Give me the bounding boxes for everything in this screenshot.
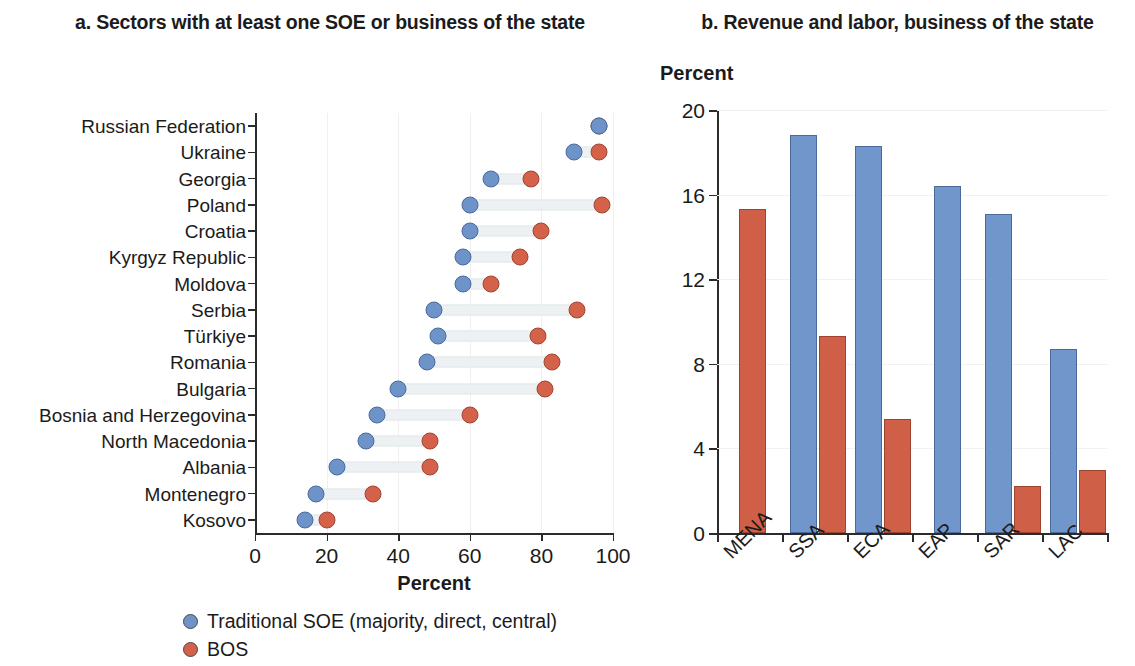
bar-revenue[interactable] <box>934 186 961 533</box>
soe-dot[interactable] <box>329 459 346 476</box>
category-label: Serbia <box>191 300 246 319</box>
category-label: Türkiye <box>184 327 246 346</box>
x-axis-tick <box>717 533 719 542</box>
gridline <box>717 110 1107 111</box>
y-axis-tick <box>248 467 255 468</box>
bos-dot[interactable] <box>365 485 382 502</box>
y-axis-tick-label: 8 <box>693 353 705 374</box>
panel-b-plot-area: 048121620 MENASSAECAEAPSARLAC <box>717 110 1107 533</box>
x-axis-tick-label: 0 <box>225 544 285 568</box>
soe-dot[interactable] <box>418 354 435 371</box>
bar-revenue[interactable] <box>855 146 882 533</box>
category-label: Poland <box>187 195 246 214</box>
soe-dot[interactable] <box>454 249 471 266</box>
bar-revenue[interactable] <box>1050 349 1077 533</box>
y-axis-tick <box>248 152 255 153</box>
legend-item[interactable]: Traditional SOE (majority, direct, centr… <box>183 607 557 635</box>
y-axis-tick <box>248 335 255 336</box>
bos-dot[interactable] <box>569 301 586 318</box>
dumbbell-connector <box>366 436 430 447</box>
gridline <box>470 113 471 533</box>
bos-dot[interactable] <box>590 144 607 161</box>
soe-dot[interactable] <box>590 118 607 135</box>
panel-a-title: a. Sectors with at least one SOE or busi… <box>40 10 620 35</box>
bos-dot[interactable] <box>422 459 439 476</box>
soe-dot[interactable] <box>461 223 478 240</box>
bar-labor[interactable] <box>819 336 846 533</box>
soe-dot[interactable] <box>565 144 582 161</box>
soe-dot[interactable] <box>429 328 446 345</box>
x-axis-tick <box>1107 533 1109 542</box>
legend-swatch-icon <box>183 642 198 657</box>
soe-dot[interactable] <box>483 170 500 187</box>
dumbbell-connector <box>377 409 470 420</box>
soe-dot[interactable] <box>297 511 314 528</box>
x-axis-tick <box>470 533 471 541</box>
dumbbell-connector <box>434 304 577 315</box>
x-axis-tick <box>1042 533 1044 542</box>
soe-dot[interactable] <box>390 380 407 397</box>
x-axis-tick <box>847 533 849 542</box>
bos-dot[interactable] <box>483 275 500 292</box>
bos-dot[interactable] <box>594 196 611 213</box>
bos-dot[interactable] <box>533 223 550 240</box>
category-label: Georgia <box>178 169 246 188</box>
gridline <box>717 364 1107 365</box>
y-axis-tick <box>248 362 255 363</box>
panel-a: a. Sectors with at least one SOE or busi… <box>0 0 660 666</box>
x-axis-tick-label: 20 <box>297 544 357 568</box>
legend-swatch-icon <box>183 614 198 629</box>
bos-dot[interactable] <box>511 249 528 266</box>
soe-dot[interactable] <box>454 275 471 292</box>
panel-b-y-axis-label: Percent <box>660 62 733 85</box>
y-axis-tick <box>248 230 255 231</box>
category-label: Russian Federation <box>81 117 246 136</box>
x-axis-tick <box>327 533 328 541</box>
gridline <box>717 448 1107 449</box>
dumbbell-connector <box>337 462 430 473</box>
dumbbell-connector <box>470 226 542 237</box>
soe-dot[interactable] <box>461 196 478 213</box>
x-axis-tick-label: 100 <box>583 544 643 568</box>
y-axis-tick-label: 4 <box>693 438 705 459</box>
figure-root: a. Sectors with at least one SOE or busi… <box>0 0 1135 666</box>
x-axis-tick <box>255 533 256 541</box>
category-label: Kyrgyz Republic <box>109 248 246 267</box>
y-axis-tick <box>709 448 717 450</box>
y-axis-tick <box>248 309 255 310</box>
bar-labor[interactable] <box>739 209 766 533</box>
category-label: Albania <box>183 458 246 477</box>
bos-dot[interactable] <box>529 328 546 345</box>
soe-dot[interactable] <box>368 406 385 423</box>
legend-label: Traditional SOE (majority, direct, centr… <box>207 610 557 633</box>
y-axis-tick-label: 12 <box>682 269 705 290</box>
bar-revenue[interactable] <box>790 135 817 533</box>
dumbbell-connector <box>398 383 545 394</box>
bar-labor[interactable] <box>1079 470 1106 533</box>
gridline <box>327 113 328 533</box>
bos-dot[interactable] <box>544 354 561 371</box>
y-axis-tick <box>248 519 255 520</box>
bos-dot[interactable] <box>522 170 539 187</box>
category-label: Romania <box>170 353 246 372</box>
gridline <box>613 113 614 533</box>
bar-labor[interactable] <box>884 419 911 533</box>
y-axis-tick <box>709 279 717 281</box>
legend-label: BOS <box>207 638 248 661</box>
x-axis-tick <box>541 533 542 541</box>
soe-dot[interactable] <box>426 301 443 318</box>
category-label: North Macedonia <box>101 432 246 451</box>
bos-dot[interactable] <box>536 380 553 397</box>
bos-dot[interactable] <box>318 511 335 528</box>
bar-labor[interactable] <box>1014 486 1041 533</box>
bos-dot[interactable] <box>461 406 478 423</box>
gridline <box>717 195 1107 196</box>
bos-dot[interactable] <box>422 433 439 450</box>
legend-item[interactable]: BOS <box>183 635 557 663</box>
bar-revenue[interactable] <box>985 214 1012 533</box>
soe-dot[interactable] <box>357 433 374 450</box>
x-axis-tick <box>398 533 399 541</box>
y-axis-tick-label: 0 <box>693 523 705 544</box>
soe-dot[interactable] <box>307 485 324 502</box>
panel-b-y-axis-line <box>717 110 719 533</box>
